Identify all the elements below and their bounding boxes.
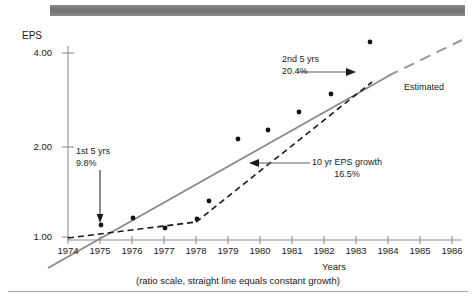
data-point	[368, 40, 373, 45]
x-tick-label-1984: 1984	[372, 245, 404, 256]
annotation-first-5yrs-line1: 1st 5 yrs	[76, 146, 110, 158]
data-point	[131, 216, 136, 221]
annotation-estimated: Estimated	[404, 82, 444, 94]
x-tick-label-1976: 1976	[116, 245, 148, 256]
data-point	[195, 217, 200, 222]
annotation-10yr-growth: 10 yr EPS growth 16.5%	[312, 157, 382, 180]
x-tick-label-1977: 1977	[148, 245, 180, 256]
x-tick-label-1986: 1986	[436, 245, 468, 256]
annotation-first-5yrs-line2: 9.8%	[76, 158, 110, 170]
x-tick-label-1985: 1985	[404, 245, 436, 256]
annotation-second-5yrs-line2: 20.4%	[282, 66, 319, 78]
data-point	[99, 223, 104, 228]
x-tick-label-1979: 1979	[212, 245, 244, 256]
data-point	[266, 128, 271, 133]
annotation-arrow-10yr	[249, 159, 310, 167]
x-tick-label-1982: 1982	[308, 245, 340, 256]
y-tick-label-2: 2.00	[18, 141, 52, 152]
annotation-second-5yrs: 2nd 5 yrs 20.4%	[282, 54, 319, 77]
trend-line-first-5yrs	[68, 222, 196, 238]
y-tick-label-1: 1.00	[18, 231, 52, 242]
footer-rule-decoration	[8, 291, 468, 292]
data-point	[236, 137, 241, 142]
data-point	[297, 110, 302, 115]
x-tick-label-1978: 1978	[180, 245, 212, 256]
x-axis-title: Years	[322, 261, 346, 272]
data-point	[163, 226, 168, 231]
x-tick-label-1975: 1975	[84, 245, 116, 256]
chart-page: EPS 4.00 2.00 1.00 1974 1975 1976 1977 1…	[0, 0, 476, 301]
data-point	[207, 199, 212, 204]
annotation-second-5yrs-line1: 2nd 5 yrs	[282, 54, 319, 66]
trend-line-second-5yrs	[196, 82, 372, 222]
y-axis-title: EPS	[22, 30, 42, 41]
data-points	[99, 40, 373, 231]
x-tick-label-1980: 1980	[244, 245, 276, 256]
x-tick-label-1974: 1974	[52, 245, 84, 256]
estimated-projection-line	[388, 40, 462, 76]
x-tick-label-1981: 1981	[276, 245, 308, 256]
y-tick-label-4: 4.00	[18, 47, 52, 58]
x-tick-label-1983: 1983	[340, 245, 372, 256]
chart-sub-caption: (ratio scale, straight line equals const…	[136, 275, 340, 286]
annotation-10yr-growth-line1: 10 yr EPS growth	[312, 157, 382, 169]
data-point	[329, 92, 334, 97]
annotation-arrow-first-5yrs	[97, 170, 104, 223]
annotation-10yr-growth-line2: 16.5%	[312, 169, 382, 181]
annotation-first-5yrs: 1st 5 yrs 9.8%	[76, 146, 110, 169]
